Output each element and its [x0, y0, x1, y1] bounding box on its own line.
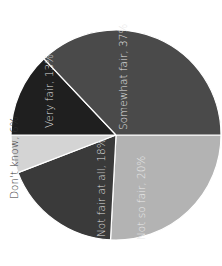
pie-slice-not-so-fair	[111, 135, 222, 240]
slice-label-not-so-fair: Not so fair, 20%	[135, 156, 147, 240]
slice-label-very-fair: Very fair, 13%	[43, 54, 55, 128]
pie-chart: Not so fair, 20%Not fair at all, 18%Don'…	[0, 0, 221, 266]
slice-label-not-fair-at-all: Not fair at all, 18%	[95, 138, 107, 237]
slice-label-don-t-know: Don't know, 6%	[8, 116, 20, 199]
slice-label-somewhat-fair: Somewhat fair, 37%	[117, 24, 129, 130]
